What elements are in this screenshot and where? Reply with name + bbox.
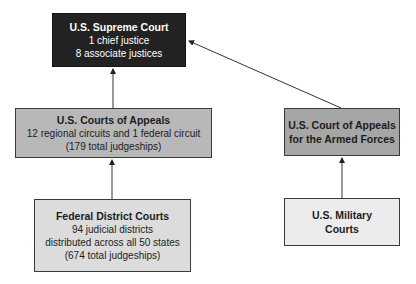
arrow-armed-to-supreme xyxy=(189,41,341,108)
district-courts-node: Federal District Courts 94 judicial dist… xyxy=(34,199,191,272)
supreme-court-node: U.S. Supreme Court 1 chief justice 8 ass… xyxy=(52,13,186,67)
node-title: U.S. Supreme Court xyxy=(69,21,168,34)
node-title: Courts xyxy=(325,222,359,236)
node-line: (179 total judgeships) xyxy=(66,140,162,153)
node-title: U.S. Military xyxy=(312,208,372,222)
node-line: (674 total judgeships) xyxy=(65,249,161,262)
armed-forces-appeals-node: U.S. Court of Appeals for the Armed Forc… xyxy=(284,108,400,156)
node-line: 94 judicial districts xyxy=(72,223,153,236)
node-line: 12 regional circuits and 1 federal circu… xyxy=(27,127,200,140)
military-courts-node: U.S. Military Courts xyxy=(284,198,400,246)
node-title: U.S. Courts of Appeals xyxy=(57,114,170,127)
node-line: 8 associate justices xyxy=(76,47,163,60)
node-line: 1 chief justice xyxy=(89,34,150,47)
node-line: distributed across all 50 states xyxy=(45,236,180,249)
courts-of-appeals-node: U.S. Courts of Appeals 12 regional circu… xyxy=(15,108,212,158)
node-title: Federal District Courts xyxy=(56,210,169,223)
node-title: for the Armed Forces xyxy=(289,132,395,146)
node-title: U.S. Court of Appeals xyxy=(288,118,396,132)
